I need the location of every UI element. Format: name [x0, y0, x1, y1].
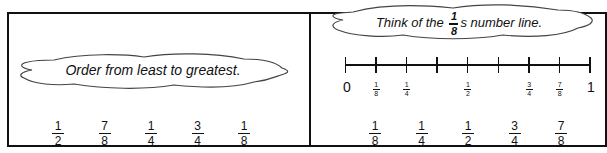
number-line-tick	[467, 57, 469, 73]
denominator: 4	[405, 90, 409, 97]
fraction-item: 18	[238, 120, 250, 147]
denominator: 2	[55, 135, 62, 147]
answer-fraction-item: 34	[509, 120, 521, 147]
denominator: 8	[101, 135, 108, 147]
left-prompt: Order from least to greatest.	[14, 62, 292, 78]
numerator: 7	[558, 81, 562, 88]
numerator: 1	[405, 81, 409, 88]
numerator: 1	[418, 120, 425, 132]
right-prompt-before: Think of the	[376, 15, 444, 30]
denominator: 4	[418, 135, 425, 147]
denominator: 4	[511, 135, 518, 147]
numerator: 1	[148, 120, 155, 132]
number-line-label: 34	[526, 81, 533, 97]
denominator: 8	[374, 90, 378, 97]
number-line-label: 18	[373, 81, 380, 97]
numerator: 1	[372, 120, 379, 132]
fraction-item: 12	[52, 120, 64, 147]
denominator: 4	[527, 90, 531, 97]
numerator: 7	[101, 120, 108, 132]
numerator: 3	[511, 120, 518, 132]
number-line-label: 14	[403, 81, 410, 97]
number-line-tick	[436, 57, 438, 73]
number-line-label: 78	[556, 81, 563, 97]
answer-fraction-item: 12	[462, 120, 474, 147]
answer-fraction-item: 14	[416, 120, 428, 147]
fraction-item: 14	[145, 120, 157, 147]
denominator: 2	[466, 90, 470, 97]
numerator: 3	[194, 120, 201, 132]
denominator: 4	[148, 135, 155, 147]
prompt-fraction: 1 8	[449, 11, 458, 37]
denominator: 8	[558, 135, 565, 147]
numerator: 1	[466, 81, 470, 88]
numerator: 3	[527, 81, 531, 88]
number-line-tick	[375, 57, 377, 73]
number-line-start-label: 0	[343, 79, 351, 95]
right-thought-cloud: Think of the 1 8 s number line.	[323, 2, 595, 42]
denominator: 8	[558, 90, 562, 97]
denominator: 8	[372, 135, 379, 147]
number-line-tick	[559, 57, 561, 73]
denominator: 8	[241, 135, 248, 147]
number-line-end-label: 1	[587, 79, 595, 95]
denominator: 4	[194, 135, 201, 147]
number-line-tick	[406, 57, 408, 73]
number-line-label: 12	[464, 81, 471, 97]
right-prompt-after: s number line.	[460, 15, 542, 30]
denominator: 2	[465, 135, 472, 147]
numerator: 1	[374, 81, 378, 88]
number-line-tick	[345, 57, 347, 73]
numerator: 1	[55, 120, 62, 132]
number-line-tick	[589, 57, 591, 73]
fraction-item: 34	[192, 120, 204, 147]
number-line-tick	[528, 57, 530, 73]
answer-fraction-item: 78	[555, 120, 567, 147]
numerator: 7	[558, 120, 565, 132]
numerator: 1	[465, 120, 472, 132]
panel-divider	[309, 12, 311, 147]
number-line-tick	[498, 57, 500, 73]
fraction-item: 78	[99, 120, 111, 147]
left-thought-cloud: Order from least to greatest.	[14, 50, 292, 92]
numerator: 1	[241, 120, 248, 132]
right-prompt: Think of the 1 8 s number line.	[323, 11, 595, 37]
answer-fraction-item: 18	[369, 120, 381, 147]
